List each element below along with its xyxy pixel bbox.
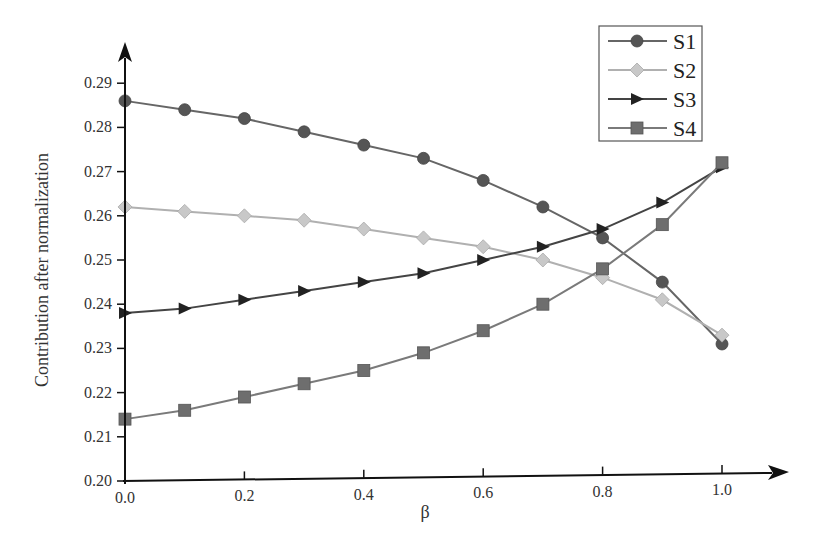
legend-label: S4 (673, 116, 696, 141)
circle-marker-icon (358, 139, 370, 151)
diamond-marker-icon (178, 204, 192, 218)
y-tick-label: 0.24 (84, 295, 112, 312)
circle-marker-icon (179, 104, 191, 116)
square-marker-icon (656, 219, 668, 231)
line-chart: 0.200.210.220.230.240.250.260.270.280.29… (0, 0, 818, 547)
x-tick-label: 0.0 (115, 489, 135, 506)
triangle-marker-icon (537, 241, 550, 253)
legend: S1S2S3S4 (599, 26, 702, 141)
y-tick-label: 0.22 (84, 384, 112, 401)
diamond-marker-icon (655, 293, 669, 307)
diamond-marker-icon (476, 240, 490, 254)
square-marker-icon (631, 122, 643, 134)
circle-marker-icon (298, 126, 310, 138)
y-tick-label: 0.21 (84, 428, 112, 445)
x-tick-label: 1.0 (712, 481, 732, 498)
triangle-marker-icon (238, 294, 251, 306)
square-marker-icon (537, 298, 549, 310)
triangle-marker-icon (358, 276, 371, 288)
x-tick-label: 0.6 (473, 484, 493, 501)
circle-marker-icon (418, 152, 430, 164)
y-axis-label: Contribution after normalization (32, 153, 52, 387)
circle-marker-icon (238, 113, 250, 125)
square-marker-icon (477, 325, 489, 337)
square-marker-icon (238, 391, 250, 403)
circle-marker-icon (477, 174, 489, 186)
legend-label: S2 (673, 58, 696, 83)
y-tick-label: 0.25 (84, 251, 112, 268)
x-axis-ticks: 0.00.20.40.60.81.0 (115, 465, 732, 506)
square-marker-icon (716, 157, 728, 169)
square-marker-icon (597, 263, 609, 275)
square-marker-icon (179, 404, 191, 416)
diamond-marker-icon (297, 213, 311, 227)
diamond-marker-icon (237, 209, 251, 223)
square-marker-icon (418, 347, 430, 359)
diamond-marker-icon (357, 222, 371, 236)
y-tick-label: 0.27 (84, 163, 112, 180)
x-tick-label: 0.8 (593, 483, 613, 500)
x-axis-line (123, 473, 772, 481)
triangle-marker-icon (179, 303, 192, 315)
circle-marker-icon (631, 35, 643, 47)
series-layer (118, 95, 729, 425)
y-tick-label: 0.20 (84, 472, 112, 489)
y-axis-ticks: 0.200.210.220.230.240.250.260.270.280.29 (84, 74, 125, 489)
x-tick-label: 0.4 (354, 486, 374, 503)
x-axis-label: β (420, 502, 429, 522)
square-marker-icon (298, 378, 310, 390)
y-tick-label: 0.26 (84, 207, 112, 224)
legend-label: S3 (673, 87, 696, 112)
triangle-marker-icon (477, 254, 490, 266)
triangle-marker-icon (298, 285, 311, 297)
series-line (125, 163, 722, 419)
circle-marker-icon (537, 201, 549, 213)
circle-marker-icon (656, 276, 668, 288)
diamond-marker-icon (417, 231, 431, 245)
triangle-marker-icon (656, 197, 669, 209)
legend-label: S1 (673, 29, 696, 54)
y-tick-label: 0.23 (84, 339, 112, 356)
triangle-marker-icon (418, 267, 431, 279)
square-marker-icon (358, 365, 370, 377)
y-tick-label: 0.28 (84, 118, 112, 135)
x-tick-label: 0.2 (234, 487, 254, 504)
y-tick-label: 0.29 (84, 74, 112, 91)
diamond-marker-icon (536, 253, 550, 267)
